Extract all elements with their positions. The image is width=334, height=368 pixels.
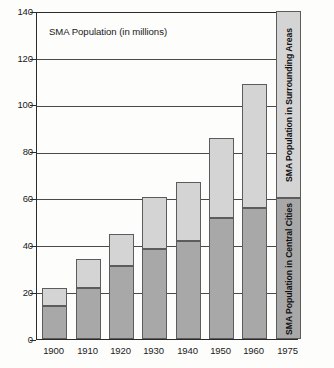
bar-1960[interactable] <box>242 84 267 339</box>
x-tick-label-1920: 1920 <box>103 345 139 356</box>
bar-1930-central-segment[interactable] <box>142 249 167 339</box>
bar-1950[interactable] <box>209 138 234 340</box>
bar-1920-central-segment[interactable] <box>109 266 134 339</box>
bar-1910[interactable] <box>76 259 101 339</box>
bar-1940-central-segment[interactable] <box>176 241 201 339</box>
chart-title: SMA Population (in millions) <box>49 26 167 37</box>
bar-1920-surrounding-segment[interactable] <box>109 234 134 267</box>
bar-1900-surrounding-segment[interactable] <box>42 288 67 307</box>
legend-key-bar: SMA Population in Surrounding Areas SMA … <box>276 11 301 339</box>
gridline-140 <box>37 12 299 13</box>
bar-1950-surrounding-segment[interactable] <box>209 138 234 219</box>
legend-swatch-central: SMA Population in Central Cities <box>276 198 301 339</box>
y-tick-label-100: 100 <box>5 100 33 110</box>
x-tick-label-1975: 1975 <box>270 345 306 356</box>
bar-1920[interactable] <box>109 234 134 339</box>
bar-1940[interactable] <box>176 182 201 339</box>
bar-1930-surrounding-segment[interactable] <box>142 197 167 249</box>
bar-1900[interactable] <box>42 288 67 340</box>
bar-1900-central-segment[interactable] <box>42 306 67 339</box>
x-axis: 1900 1910 1920 1930 1940 1950 1960 1975 <box>36 345 298 361</box>
bar-1940-surrounding-segment[interactable] <box>176 182 201 241</box>
bar-1910-surrounding-segment[interactable] <box>76 259 101 287</box>
x-tick-label-1950: 1950 <box>203 345 239 356</box>
y-tick-label-40: 40 <box>5 241 33 251</box>
gridline-120 <box>37 59 299 60</box>
y-axis: 140 120 100 80 60 40 20 0 <box>0 12 33 340</box>
x-tick-label-1900: 1900 <box>36 345 72 356</box>
bar-1950-central-segment[interactable] <box>209 218 234 339</box>
bar-1960-surrounding-segment[interactable] <box>242 84 267 208</box>
bar-1930[interactable] <box>142 197 167 339</box>
y-tick-label-20: 20 <box>5 288 33 298</box>
y-tick-mark-0 <box>30 340 36 341</box>
y-tick-label-0: 0 <box>5 335 33 345</box>
y-tick-label-120: 120 <box>5 54 33 64</box>
legend-label-central: SMA Population in Central Cities <box>284 203 294 335</box>
y-tick-label-60: 60 <box>5 194 33 204</box>
y-tick-label-80: 80 <box>5 147 33 157</box>
bar-1910-central-segment[interactable] <box>76 288 101 340</box>
x-tick-label-1910: 1910 <box>70 345 106 356</box>
legend-label-surrounding: SMA Population in Surrounding Areas <box>284 28 294 182</box>
legend-swatch-surrounding: SMA Population in Surrounding Areas <box>276 11 301 198</box>
x-tick-label-1940: 1940 <box>170 345 206 356</box>
x-tick-label-1930: 1930 <box>136 345 172 356</box>
bar-1960-central-segment[interactable] <box>242 208 267 339</box>
chart-container: 140 120 100 80 60 40 20 0 <box>0 0 334 368</box>
y-tick-label-140: 140 <box>5 7 33 17</box>
plot-area: SMA Population in Surrounding Areas SMA … <box>36 12 298 340</box>
x-tick-label-1960: 1960 <box>236 345 272 356</box>
